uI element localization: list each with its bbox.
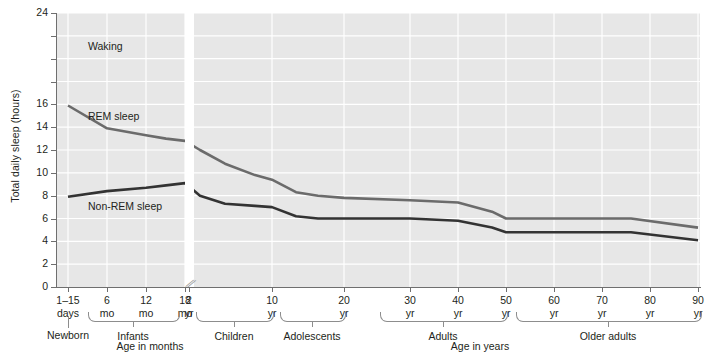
y-tick-mark [51, 59, 57, 60]
x-tick-label-value: 2 [159, 294, 219, 307]
x-tick-mark [458, 287, 459, 292]
group-stem [68, 316, 69, 328]
x-tick-mark [68, 287, 69, 292]
y-tick-mark [51, 104, 57, 105]
y-tick-label: 6 [12, 212, 48, 224]
y-tick-label: 10 [12, 166, 48, 178]
gridlines [57, 13, 700, 287]
plot-area [57, 13, 700, 287]
region-label-rem: REM sleep [88, 110, 139, 122]
x-tick-label-value: 90 [668, 294, 723, 307]
sleep-chart: Total daily sleep (hours) ∕∕ 24161412108… [0, 0, 723, 362]
x-tick-label-value: 20 [314, 294, 374, 307]
y-tick-label: 12 [12, 143, 48, 155]
y-tick-label: 0 [12, 280, 48, 292]
x-tick-mark [506, 287, 507, 292]
y-tick-mark [51, 264, 57, 265]
series-line-waking-rem-boundary [68, 106, 698, 228]
x-tick-mark [185, 287, 186, 292]
y-tick-mark [51, 127, 57, 128]
plot-svg [57, 13, 700, 287]
y-tick-mark [51, 150, 57, 151]
x-tick-mark [650, 287, 651, 292]
region-label-waking: Waking [88, 40, 123, 52]
x-tick-mark [146, 287, 147, 292]
y-tick-label: 16 [12, 97, 48, 109]
axis-caption-years: Age in years [390, 340, 570, 352]
axis-break-band [185, 13, 194, 290]
y-tick-mark [51, 196, 57, 197]
series-line-rem-nonrem-boundary [68, 183, 698, 240]
group-bracket-stem [133, 321, 134, 327]
x-tick-label-value: 10 [242, 294, 302, 307]
region-label-non-rem: Non-REM sleep [88, 200, 162, 212]
x-tick-mark [344, 287, 345, 292]
group-bracket-stem [443, 321, 444, 327]
y-tick-mark [51, 82, 57, 83]
y-tick-mark [51, 173, 57, 174]
y-tick-label: 24 [12, 6, 48, 18]
y-tick-label: 4 [12, 234, 48, 246]
group-bracket-stem [234, 321, 235, 327]
x-tick-mark [410, 287, 411, 292]
y-tick-mark [51, 13, 57, 14]
x-tick-mark [698, 287, 699, 292]
y-tick-mark [51, 219, 57, 220]
x-tick-mark [272, 287, 273, 292]
group-bracket-stem [608, 321, 609, 327]
x-axis-line [56, 287, 701, 288]
y-tick-label: 8 [12, 189, 48, 201]
group-label-adolescents: Adolescents [242, 330, 382, 342]
y-tick-mark [51, 241, 57, 242]
group-bracket-stem [312, 321, 313, 327]
x-tick-mark [107, 287, 108, 292]
x-tick-mark [189, 287, 190, 292]
x-tick-mark [602, 287, 603, 292]
y-tick-label: 14 [12, 120, 48, 132]
axis-caption-months: Age in months [60, 340, 240, 352]
y-tick-label: 2 [12, 257, 48, 269]
y-tick-mark [51, 287, 57, 288]
y-tick-mark [51, 36, 57, 37]
x-tick-mark [554, 287, 555, 292]
